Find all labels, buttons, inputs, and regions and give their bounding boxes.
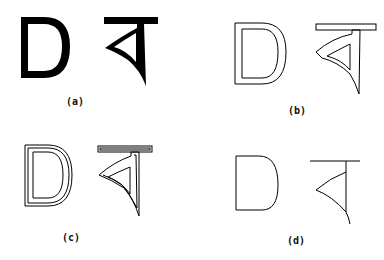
glyph-d-double-outer bbox=[25, 145, 72, 206]
caption-c: (c) bbox=[62, 232, 80, 243]
glyph-ba-outline bbox=[316, 24, 376, 94]
glyph-ba-solid bbox=[104, 17, 158, 86]
caption-a: (a) bbox=[66, 96, 84, 107]
glyph-ba-double bbox=[98, 146, 152, 216]
glyph-d-outline bbox=[235, 23, 286, 84]
glyph-d-solid bbox=[21, 17, 70, 78]
glyph-ba-skeleton bbox=[310, 161, 360, 224]
caption-d: (d) bbox=[287, 235, 305, 246]
caption-b: (b) bbox=[288, 105, 306, 116]
panel-a-glyphs bbox=[21, 17, 158, 86]
panel-d-glyphs bbox=[236, 156, 360, 224]
panel-b-glyphs bbox=[235, 23, 376, 94]
diagram-figure: (a) (b) (c) (d) bbox=[0, 0, 384, 260]
glyph-d-double-inner bbox=[33, 152, 63, 198]
panel-c-glyphs bbox=[25, 145, 152, 216]
figure-canvas bbox=[0, 0, 384, 260]
glyph-d-skeleton bbox=[236, 156, 278, 210]
